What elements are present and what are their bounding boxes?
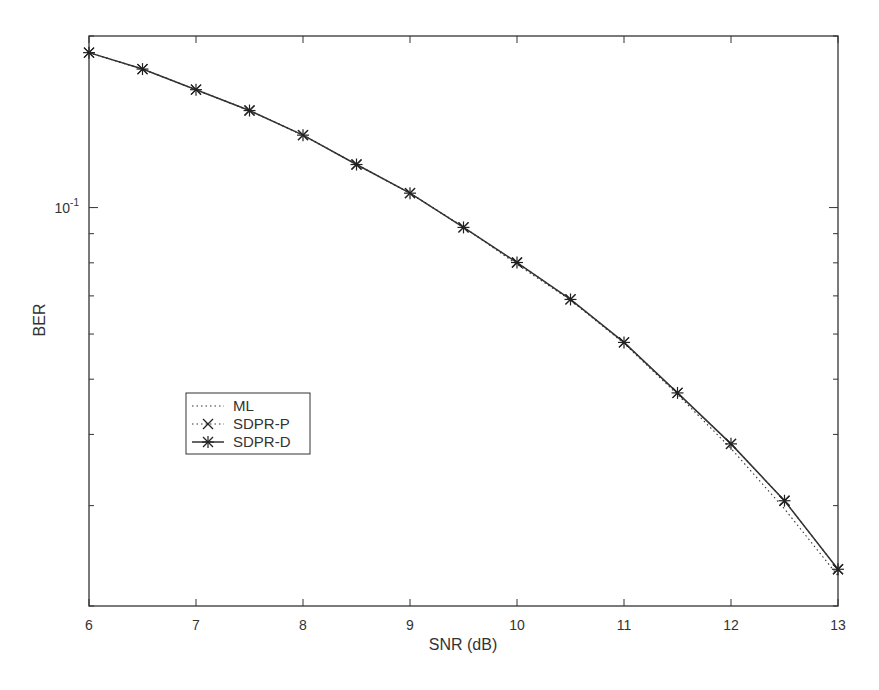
legend-label: ML [233,397,254,414]
y-axis-label: BER [31,304,48,337]
series-layer [83,47,844,576]
legend-label: SDPR-D [233,433,291,450]
x-tick-label: 12 [723,617,739,633]
axis-ticks: 67891011121310-1 [55,36,846,633]
x-tick-label: 6 [85,617,93,633]
ber-vs-snr-chart: 67891011121310-1 SNR (dB) BER MLSDPR-PSD… [0,0,879,690]
series-line [89,53,838,576]
x-tick-label: 11 [617,617,632,633]
series-ml [89,53,838,576]
x-tick-label: 8 [299,617,307,633]
x-axis-label: SNR (dB) [429,636,497,653]
x-tick-label: 13 [830,617,846,633]
plot-border [89,36,838,606]
legend: MLSDPR-PSDPR-D [186,393,310,454]
series-sdpr-p [84,48,843,575]
series-line [89,53,838,570]
x-tick-label: 10 [509,617,525,633]
series-line [89,53,838,570]
y-tick-label: 10-1 [55,197,80,216]
x-tick-label: 7 [192,617,200,633]
series-sdpr-d [83,47,844,576]
plot-area [89,36,838,606]
legend-label: SDPR-P [233,415,290,432]
x-tick-label: 9 [406,617,414,633]
